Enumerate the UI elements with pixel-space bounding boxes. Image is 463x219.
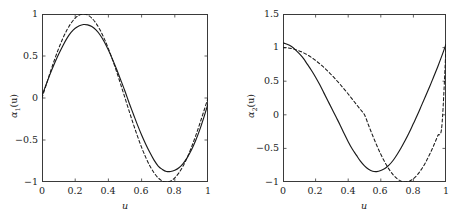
panel-alpha2: 1.5 1 0.5 0 −0.5 −1 0 0.2 0.4 0.6 0.8 1 …	[231, 0, 462, 219]
xaxis-label-alpha2: u	[344, 201, 384, 211]
yaxis-label-alpha1-symbol: α	[8, 112, 19, 118]
xtick-alpha1-3: 0.6	[129, 186, 153, 196]
curve-true	[283, 48, 446, 182]
panel-alpha1: 1 0.5 0 −0.5 −1 0 0.2 0.4 0.6 0.8 1 u α1…	[0, 0, 231, 219]
yaxis-label-alpha2-index: 2	[251, 107, 259, 111]
ytick-alpha2-2: 0.5	[247, 76, 279, 86]
ytick-alpha2-0: 1.5	[247, 9, 279, 19]
yaxis-label-alpha1-arg: (u)	[8, 94, 19, 108]
ytick-alpha1-1: 0.5	[10, 51, 38, 61]
xtick-alpha1-2: 0.4	[96, 186, 120, 196]
xtick-alpha2-0: 0	[271, 186, 295, 196]
xaxis-label-alpha1: u	[105, 201, 145, 211]
xtick-alpha1-0: 0	[30, 186, 54, 196]
xtick-alpha1-4: 0.8	[162, 186, 186, 196]
figure-container: 1 0.5 0 −0.5 −1 0 0.2 0.4 0.6 0.8 1 u α1…	[0, 0, 463, 219]
ytick-alpha2-4: −0.5	[243, 143, 279, 153]
plot-curves-alpha2	[283, 14, 446, 182]
ytick-alpha1-3: −0.5	[6, 135, 38, 145]
ytick-alpha1-0: 1	[10, 9, 38, 19]
xtick-alpha1-1: 0.2	[63, 186, 87, 196]
ytick-alpha2-1: 1	[247, 42, 279, 52]
yaxis-label-alpha1: α1(u)	[9, 94, 21, 118]
yaxis-label-alpha2: α2(u)	[246, 94, 258, 118]
plot-curves-alpha1	[42, 14, 208, 182]
yaxis-label-alpha2-arg: (u)	[245, 94, 256, 108]
curve-estimate	[283, 43, 446, 172]
xtick-alpha2-3: 0.6	[368, 186, 392, 196]
yaxis-label-alpha2-symbol: α	[245, 112, 256, 118]
xtick-alpha1-5: 1	[196, 186, 220, 196]
xtick-alpha2-5: 1	[434, 186, 458, 196]
yaxis-label-alpha1-index: 1	[14, 107, 22, 111]
xtick-alpha2-2: 0.4	[336, 186, 360, 196]
xtick-alpha2-4: 0.8	[401, 186, 425, 196]
curve-estimate	[42, 24, 208, 171]
xtick-alpha2-1: 0.2	[303, 186, 327, 196]
